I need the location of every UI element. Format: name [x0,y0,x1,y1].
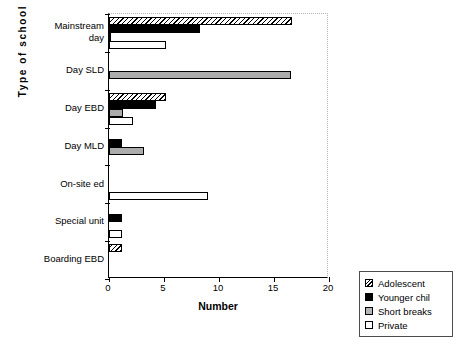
legend-item-private[interactable]: Private [365,318,448,332]
chart-legend: AdolescentYounger chilShort breaksPrivat… [359,271,453,337]
plot-area [108,13,328,278]
category-label-line: Day MLD [36,140,104,152]
legend-item-short-breaks[interactable]: Short breaks [365,304,448,318]
category-label-day-sld: Day SLD [36,64,104,76]
y-axis-tick [105,241,110,242]
category-axis-labels: MainstreamdayDay SLDDay EBDDay MLDOn-sit… [36,10,104,276]
x-axis-title: Number [108,300,328,312]
legend-swatch-icon [365,279,373,287]
category-label-boarding-ebd: Boarding EBD [36,253,104,265]
bar-day-sld-short-breaks [109,71,291,79]
bar-day-ebd-private [109,117,133,125]
x-axis-tick-label: 0 [93,282,123,293]
x-axis-tick-label: 10 [203,282,233,293]
category-label-line: Day EBD [36,102,104,114]
category-label-special-unit: Special unit [36,215,104,227]
category-label-day-ebd: Day EBD [36,102,104,114]
bar-boarding-ebd-adolescent [109,244,122,252]
bar-special-unit-younger-chil [109,214,122,222]
bar-mainstream-day-short-breaks [109,33,111,41]
category-label-on-site-ed: On-site ed [36,178,104,190]
bar-day-ebd-adolescent [109,93,166,101]
x-axis-tick-label: 15 [258,282,288,293]
category-label-line: Boarding EBD [36,253,104,265]
bar-mainstream-day-younger-chil [109,25,200,33]
legend-label: Private [378,320,408,331]
x-axis-tick-label: 5 [148,282,178,293]
legend-swatch-icon [365,307,373,315]
category-label-day-mld: Day MLD [36,140,104,152]
legend-label: Short breaks [378,306,432,317]
bar-special-unit-private [109,230,122,238]
bar-mainstream-day-private [109,41,166,49]
legend-swatch-icon [365,321,373,329]
bar-chart-figure: Type of school MainstreamdayDay SLDDay E… [0,0,458,345]
bar-day-ebd-younger-chil [109,101,156,109]
legend-label: Adolescent [378,278,425,289]
legend-item-adolescent[interactable]: Adolescent [365,276,448,290]
bar-on-site-ed-private [109,192,208,200]
category-label-line: On-site ed [36,178,104,190]
y-axis-title: Type of school [14,0,32,116]
y-axis-tick [105,14,110,15]
bar-mainstream-day-adolescent [109,17,292,25]
category-label-line: Day SLD [36,64,104,76]
category-label-mainstream-day: Mainstreamday [36,20,104,43]
legend-label: Younger chil [378,292,430,303]
y-axis-tick [105,90,110,91]
x-axis-tick-label: 20 [313,282,343,293]
legend-item-younger-chil[interactable]: Younger chil [365,290,448,304]
category-label-line: Mainstream [36,20,104,32]
bar-day-mld-short-breaks [109,147,144,155]
y-axis-tick [105,203,110,204]
y-axis-tick [105,128,110,129]
bar-day-mld-younger-chil [109,139,122,147]
category-label-line: Special unit [36,215,104,227]
category-label-line: day [36,32,104,44]
bar-day-ebd-short-breaks [109,109,123,117]
y-axis-tick [105,165,110,166]
legend-swatch-icon [365,293,373,301]
y-axis-tick [105,52,110,53]
